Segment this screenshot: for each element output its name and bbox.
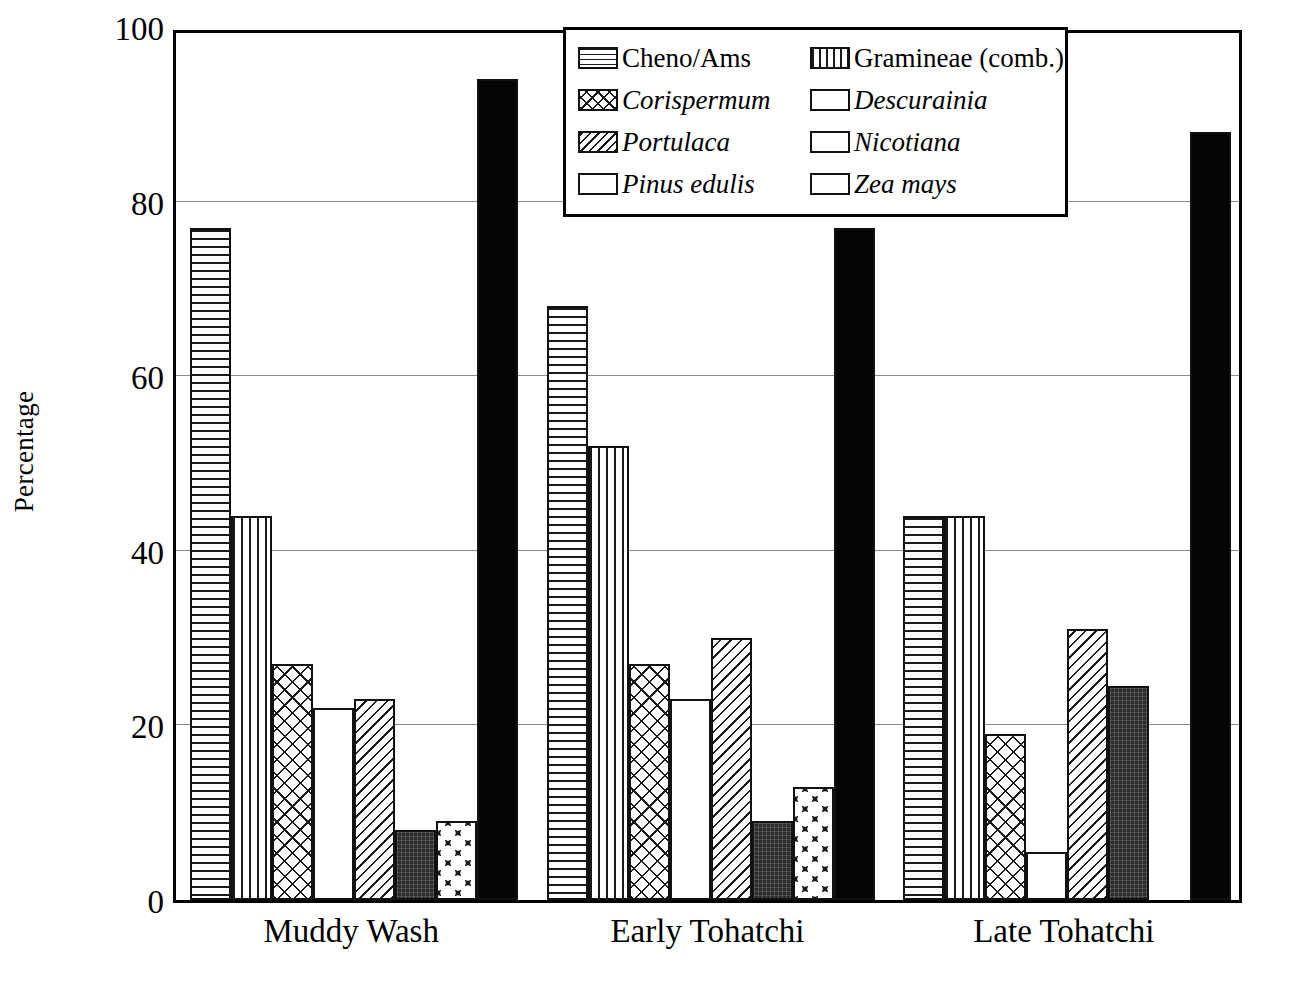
legend-swatch-icon [810, 47, 850, 69]
legend-swatch-icon [578, 173, 618, 195]
y-tick-label-80: 80 [44, 188, 164, 221]
y-tick-label-100: 100 [44, 13, 164, 46]
x-axis-label-3: Late Tohatchi [904, 908, 1224, 954]
legend-label: Descurainia [854, 87, 987, 114]
figure-caption [0, 966, 1313, 984]
bar [670, 699, 711, 900]
legend-label: Gramineae (comb.) [854, 45, 1064, 72]
legend-swatch-icon [810, 173, 850, 195]
legend-item[interactable]: Zea mays [810, 171, 1050, 198]
legend-row: CorispermumDescurainia [578, 79, 1055, 121]
legend-item[interactable]: Corispermum [578, 87, 810, 114]
legend-row: PortulacaNicotiana [578, 121, 1055, 163]
legend-label: Portulaca [622, 129, 730, 156]
legend-swatch-icon [810, 131, 850, 153]
legend-swatch-icon [578, 89, 618, 111]
legend-item[interactable]: Descurainia [810, 87, 1050, 114]
bar [313, 708, 354, 900]
bar [1026, 852, 1067, 900]
bar [354, 699, 395, 900]
bar-chart-figure: Percentage 020406080100 Muddy WashEarly … [0, 0, 1313, 984]
bar [1190, 132, 1231, 900]
chart-legend: Cheno/AmsGramineae (comb.)CorispermumDes… [563, 27, 1068, 217]
legend-row: Cheno/AmsGramineae (comb.) [578, 37, 1055, 79]
legend-item[interactable]: Nicotiana [810, 129, 1050, 156]
bar [985, 734, 1026, 900]
bar [752, 821, 793, 900]
bar [793, 787, 834, 900]
bar [190, 228, 231, 900]
legend-swatch-icon [810, 89, 850, 111]
bar [231, 516, 272, 900]
bar [477, 79, 518, 900]
x-axis-label-2: Early Tohatchi [548, 908, 868, 954]
y-tick-label-40: 40 [44, 537, 164, 570]
bar [395, 830, 436, 900]
legend-swatch-icon [578, 47, 618, 69]
bar [629, 664, 670, 900]
legend-label: Pinus edulis [622, 171, 755, 198]
bar [1108, 686, 1149, 900]
bar [1067, 629, 1108, 900]
y-tick-label-20: 20 [44, 711, 164, 744]
legend-item[interactable]: Pinus edulis [578, 171, 810, 198]
y-tick-label-60: 60 [44, 362, 164, 395]
bar [903, 516, 944, 900]
legend-row: Pinus edulisZea mays [578, 163, 1055, 205]
bar [944, 516, 985, 900]
y-axis-tick-labels: 020406080100 [36, 0, 164, 903]
legend-item[interactable]: Gramineae (comb.) [810, 45, 1050, 72]
y-tick-label-0: 0 [44, 886, 164, 919]
bar [711, 638, 752, 900]
legend-label: Cheno/Ams [622, 45, 751, 72]
bar [547, 306, 588, 900]
x-axis-label-1: Muddy Wash [191, 908, 511, 954]
bar [834, 228, 875, 900]
legend-item[interactable]: Portulaca [578, 129, 810, 156]
bar [588, 446, 629, 900]
legend-item[interactable]: Cheno/Ams [578, 45, 810, 72]
bar [272, 664, 313, 900]
bar [436, 821, 477, 900]
legend-swatch-icon [578, 131, 618, 153]
x-axis-category-labels: Muddy WashEarly TohatchiLate Tohatchi [173, 908, 1242, 960]
legend-label: Corispermum [622, 87, 771, 114]
legend-label: Nicotiana [854, 129, 961, 156]
legend-label: Zea mays [854, 171, 957, 198]
